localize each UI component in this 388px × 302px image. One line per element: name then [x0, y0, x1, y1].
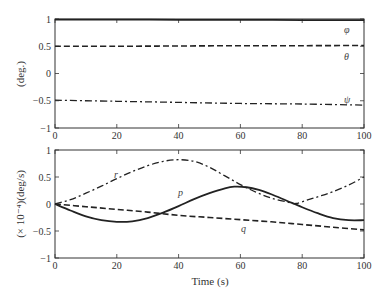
- bottom-ylabel: (× 10⁻⁴)(deg/s): [14, 170, 27, 238]
- bottom-xtick-label: 40: [174, 260, 184, 271]
- top-ytick-label: −1: [40, 123, 51, 134]
- chart-figure: 02040608010010.50−0.5−1 (deg.) φ θ ψ 020…: [0, 0, 388, 302]
- label-psi: ψ: [344, 94, 351, 105]
- top-xtick-label: 100: [357, 130, 372, 141]
- bottom-series-dashdot-line: [55, 160, 364, 204]
- bottom-xtick-label: 0: [53, 260, 58, 271]
- label-phi: φ: [344, 24, 350, 35]
- bottom-series: [55, 160, 364, 230]
- bottom-xtick-label: 80: [297, 260, 307, 271]
- label-theta: θ: [344, 51, 349, 62]
- bottom-ytick-label: 0: [46, 199, 51, 210]
- top-xtick-label: 80: [297, 130, 307, 141]
- top-ylabel: (deg.): [14, 61, 27, 87]
- top-ticks: 02040608010010.50−0.5−1: [33, 14, 372, 142]
- top-series: [55, 20, 364, 106]
- top-ytick-label: 0.5: [39, 41, 52, 52]
- bottom-series-dashed-line: [55, 204, 364, 230]
- bottom-xtick-label: 20: [112, 260, 122, 271]
- top-xtick-label: 0: [53, 130, 58, 141]
- top-ytick-label: 0: [46, 68, 51, 79]
- top-series-solid-line: [55, 20, 364, 21]
- bottom-ytick-label: 0.5: [39, 172, 52, 183]
- bottom-ytick-label: −1: [40, 253, 51, 264]
- bottom-plot-frame: [55, 150, 364, 258]
- bottom-xlabel: Time (s): [191, 275, 229, 288]
- bottom-panel: 02040608010010.50−0.5−1 (× 10⁻⁴)(deg/s) …: [14, 145, 372, 289]
- top-series-dashed-line: [55, 45, 364, 46]
- bottom-ytick-label: −0.5: [33, 226, 51, 237]
- bottom-ytick-label: 1: [46, 145, 51, 156]
- label-q: q: [241, 223, 246, 234]
- top-ytick-label: −0.5: [33, 95, 51, 106]
- bottom-xtick-label: 100: [357, 260, 372, 271]
- top-plot-frame: [55, 19, 364, 128]
- label-p: p: [177, 187, 183, 198]
- top-series-dashdot-line: [55, 100, 364, 105]
- top-ytick-label: 1: [46, 14, 51, 25]
- top-xtick-label: 20: [112, 130, 122, 141]
- top-panel: 02040608010010.50−0.5−1 (deg.) φ θ ψ: [14, 14, 372, 142]
- bottom-series-solid-line: [55, 187, 364, 222]
- top-xtick-label: 60: [235, 130, 245, 141]
- top-xtick-label: 40: [174, 130, 184, 141]
- bottom-xtick-label: 60: [235, 260, 245, 271]
- label-r: r: [114, 169, 118, 180]
